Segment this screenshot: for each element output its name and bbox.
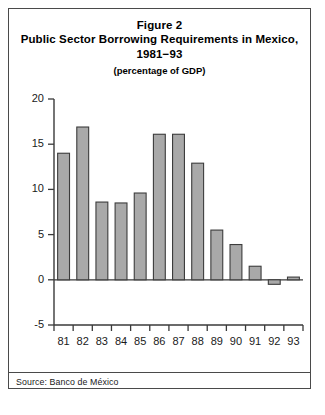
bars-group: [58, 127, 300, 284]
bar-91: [249, 266, 261, 280]
bar-92: [268, 280, 280, 285]
x-tick-label: 90: [230, 335, 242, 347]
x-tick-label: 83: [96, 335, 108, 347]
bar-93: [287, 277, 299, 280]
bar-89: [211, 230, 223, 280]
bar-90: [230, 245, 242, 280]
x-axis: [54, 280, 303, 331]
y-tick-label: 5: [38, 228, 44, 240]
figure-frame: Figure 2 Public Sector Borrowing Require…: [8, 8, 311, 389]
x-tick-label-group: 81828384858687888990919293: [57, 335, 299, 347]
bar-81: [58, 153, 70, 280]
bar-87: [173, 134, 185, 280]
y-tick-group: 20151050-5: [32, 92, 54, 330]
x-tick-label: 91: [249, 335, 261, 347]
figure-subtitle: (percentage of GDP): [9, 64, 310, 77]
y-tick-label: -5: [34, 318, 44, 330]
bar-84: [115, 203, 127, 280]
bar-85: [134, 193, 146, 280]
bar-88: [192, 163, 204, 280]
y-tick-label: 15: [32, 137, 44, 149]
x-tick-label: 84: [115, 335, 127, 347]
x-tick-label: 87: [172, 335, 184, 347]
x-tick-label: 92: [268, 335, 280, 347]
x-tick-group: [54, 325, 303, 331]
y-tick-label: 10: [32, 182, 44, 194]
source-divider: [9, 372, 311, 373]
x-tick-label: 81: [57, 335, 69, 347]
bar-chart-svg: 20151050-5 81828384858687888990919293: [9, 87, 311, 372]
source-note: Source: Banco de México: [16, 377, 119, 387]
title-block: Figure 2 Public Sector Borrowing Require…: [9, 9, 310, 77]
figure-title: Public Sector Borrowing Requirements in …: [9, 32, 310, 61]
y-tick-label: 20: [32, 92, 44, 104]
bar-83: [96, 202, 108, 280]
y-axis: 20151050-5: [32, 92, 54, 330]
x-tick-label: 88: [192, 335, 204, 347]
y-tick-label: 0: [38, 273, 44, 285]
x-tick-label: 89: [211, 335, 223, 347]
figure-label: Figure 2: [9, 18, 310, 32]
bar-86: [153, 134, 165, 280]
chart-plot-area: 20151050-5 81828384858687888990919293: [9, 87, 311, 372]
x-tick-label: 82: [77, 335, 89, 347]
x-tick-label: 85: [134, 335, 146, 347]
x-tick-label: 93: [287, 335, 299, 347]
bar-82: [77, 127, 89, 280]
x-tick-label: 86: [153, 335, 165, 347]
